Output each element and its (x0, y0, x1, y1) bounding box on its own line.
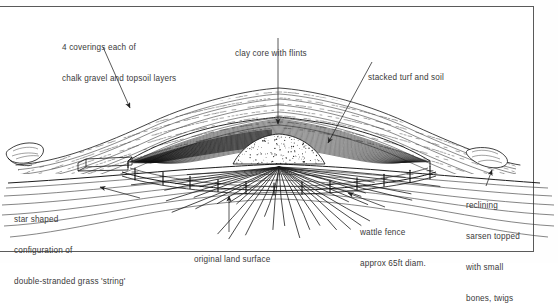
label-stacked-turf-line1: stacked turf and soil (368, 73, 444, 83)
label-star-string: star shaped configuration of double-stra… (14, 194, 125, 307)
label-wattle-fence-line2: approx 65ft diam. (360, 259, 426, 269)
leader-stacked-turf (328, 62, 372, 143)
label-stacked-turf: stacked turf and soil (368, 52, 444, 104)
label-clay-core-line1: clay core with flints (235, 49, 307, 59)
label-star-string-line3: double-stranded grass 'string' (14, 277, 125, 287)
label-clay-core: clay core with flints (235, 28, 307, 80)
label-sarsen-line4: bones, twigs (466, 294, 520, 304)
label-sarsen: reclining sarsen topped with small bones… (466, 180, 520, 307)
label-sarsen-line1: reclining (466, 201, 520, 211)
label-land-surface: original land surface (194, 234, 270, 286)
label-star-string-line2: configuration of (14, 246, 125, 256)
label-wattle-fence: wattle fence approx 65ft diam. (360, 207, 426, 290)
label-coverings-line1: 4 coverings each of (62, 43, 176, 53)
label-coverings: 4 coverings each of chalk gravel and top… (62, 22, 176, 105)
label-wattle-fence-line1: wattle fence (360, 228, 426, 238)
reclining-sarsen-right (466, 148, 507, 168)
label-star-string-line1: star shaped (14, 215, 125, 225)
label-sarsen-line2: sarsen topped (466, 232, 520, 242)
label-land-surface-line1: original land surface (194, 255, 270, 265)
label-coverings-line2: chalk gravel and topsoil layers (62, 74, 176, 84)
label-sarsen-line3: with small (466, 263, 520, 273)
